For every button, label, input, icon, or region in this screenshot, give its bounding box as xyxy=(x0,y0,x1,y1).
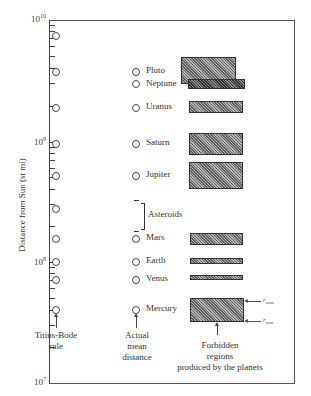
tb-point xyxy=(52,205,60,213)
actual-point-jupiter xyxy=(132,172,140,180)
actual-point-mars xyxy=(132,235,140,243)
tb-arrow-icon xyxy=(56,316,57,328)
forbidden-neptune xyxy=(188,79,245,89)
plot-frame xyxy=(49,20,295,384)
label-uranus: Uranus xyxy=(146,101,172,111)
forbidden-mars xyxy=(190,233,243,245)
forbidden-mercury xyxy=(190,298,244,322)
tb-point xyxy=(52,235,60,243)
rmin-label: rmin xyxy=(263,316,273,325)
rmin-arrow-icon xyxy=(247,321,261,322)
actual-point-earth xyxy=(132,258,140,266)
label-venus: Venus xyxy=(146,273,168,283)
y-tick-label-1e7: 107 xyxy=(18,376,46,387)
forbidden-saturn xyxy=(189,133,243,155)
tb-point xyxy=(52,32,60,40)
actual-point-neptune xyxy=(132,80,140,88)
label-saturn: Saturn xyxy=(146,137,170,147)
rmax-arrow-icon xyxy=(247,301,261,302)
asteroid-dash-bottom xyxy=(134,231,139,232)
forbidden-jupiter xyxy=(189,162,243,189)
label-mars: Mars xyxy=(146,232,165,242)
y-tick-label-1e10: 1010 xyxy=(18,13,46,24)
tb-point xyxy=(52,258,60,266)
tb-point xyxy=(52,68,60,76)
label-jupiter: Jupiter xyxy=(146,169,171,179)
caption-titius-bode: Titius-Bode rule xyxy=(28,330,84,352)
tb-point xyxy=(52,172,60,180)
rmax-label: rmax xyxy=(263,296,274,305)
caption-actual: Actual mean distance xyxy=(112,330,162,363)
label-earth: Earth xyxy=(146,255,166,265)
caption-forbidden: Forbidden regions produced by the planet… xyxy=(168,340,272,373)
tb-point xyxy=(52,140,60,148)
forbidden-arrow-icon xyxy=(217,325,218,335)
y-axis-title: Distance from Sun (st mi) xyxy=(17,145,27,265)
label-pluto: Pluto xyxy=(146,65,165,75)
actual-point-pluto xyxy=(132,68,140,76)
label-asteroids: Asteroids xyxy=(148,209,183,219)
actual-point-saturn xyxy=(132,140,140,148)
label-neptune: Neptune xyxy=(146,78,177,88)
actual-point-uranus xyxy=(132,104,140,112)
forbidden-venus xyxy=(190,275,243,280)
actual-point-venus xyxy=(132,276,140,284)
asteroid-dash-top xyxy=(134,200,139,201)
forbidden-uranus xyxy=(189,101,243,113)
actual-arrow-icon xyxy=(136,316,137,328)
tb-point xyxy=(52,276,60,284)
forbidden-earth xyxy=(190,258,243,264)
label-mercury: Mercury xyxy=(146,303,177,313)
asteroid-bracket xyxy=(141,203,145,230)
tb-point xyxy=(52,104,60,112)
